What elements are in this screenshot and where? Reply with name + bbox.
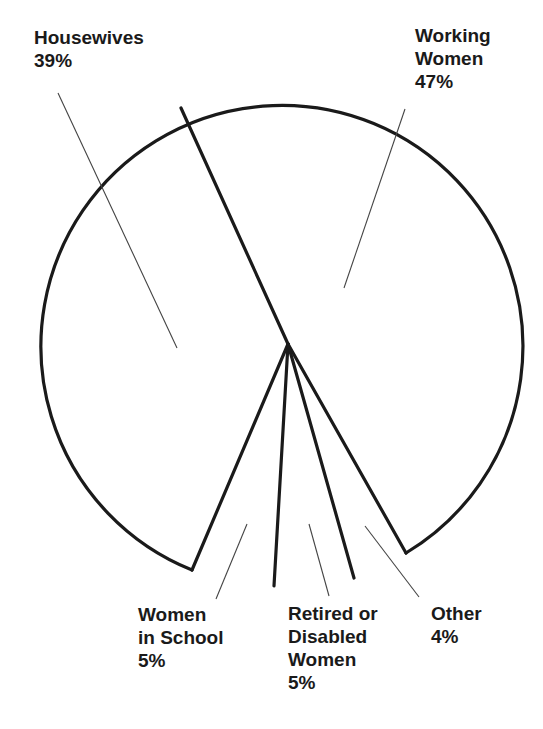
label-text: Women xyxy=(415,47,491,70)
label-retired-disabled: Retired or Disabled Women 5% xyxy=(288,602,378,694)
label-value: 47% xyxy=(415,70,491,93)
slice-divider-housewives-working xyxy=(181,108,288,344)
label-text: Housewives xyxy=(34,26,144,49)
pie-outline xyxy=(41,105,523,570)
label-other: Other 4% xyxy=(431,602,482,648)
slice-line-school xyxy=(274,344,288,586)
label-text: Women xyxy=(138,603,224,626)
label-women-in-school: Women in School 5% xyxy=(138,603,224,672)
leader-other xyxy=(365,526,419,597)
slice-line-retired xyxy=(288,344,354,578)
label-text: Other xyxy=(431,602,482,625)
leader-retired xyxy=(309,524,329,596)
leader-working xyxy=(344,109,405,288)
slice-edge-housewives-bottom xyxy=(192,344,288,570)
label-text: Disabled xyxy=(288,625,378,648)
leader-school xyxy=(216,524,247,599)
label-value: 5% xyxy=(138,649,224,672)
label-text: Working xyxy=(415,24,491,47)
slice-edge-working-bottom xyxy=(288,344,406,553)
label-text: in School xyxy=(138,626,224,649)
label-text: Retired or xyxy=(288,602,378,625)
label-value: 4% xyxy=(431,625,482,648)
label-value: 5% xyxy=(288,671,378,694)
label-value: 39% xyxy=(34,49,144,72)
label-working-women: Working Women 47% xyxy=(415,24,491,93)
label-text: Women xyxy=(288,648,378,671)
label-housewives: Housewives 39% xyxy=(34,26,144,72)
